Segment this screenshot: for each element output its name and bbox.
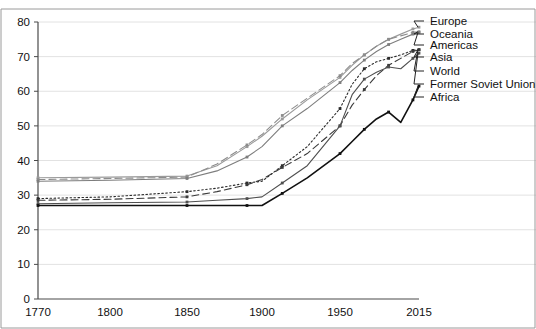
data-point-africa-1970: [363, 128, 366, 131]
data-point-americas-1913: [281, 124, 284, 127]
y-tick-label-60: 60: [17, 85, 30, 97]
data-point-asia-1850: [186, 190, 189, 193]
y-tick-label-70: 70: [17, 51, 30, 63]
data-point-africa-1913: [281, 192, 284, 195]
data-point-africa-1770: [37, 204, 40, 207]
line-chart: 01020304050607080 1770180018501900195020…: [0, 0, 536, 329]
y-tick-label-0: 0: [24, 293, 30, 305]
data-point-oceania-1913: [281, 114, 284, 117]
x-axis-tick-labels: 177018001850190019502015: [25, 306, 432, 318]
data-point-oceania-1890: [246, 144, 249, 147]
data-point-asia-1950: [339, 107, 342, 110]
data-point-americas-1770: [37, 180, 40, 183]
legend-label-asia: Asia: [430, 51, 453, 63]
data-point-americas-1890: [246, 156, 249, 159]
data-point-former-soviet-union-1913: [281, 182, 284, 185]
data-point-africa-1950: [339, 152, 342, 155]
series-line-former-soviet-union: [38, 53, 419, 204]
series-line-europe: [38, 27, 419, 178]
data-point-africa-2010: [412, 99, 415, 102]
legend-labels: EuropeOceaniaAmericasAsiaWorldFormer Sov…: [430, 15, 535, 103]
y-tick-label-40: 40: [17, 155, 30, 167]
series-line-africa: [38, 86, 419, 205]
series-layer: [37, 26, 421, 207]
x-tick-label-1900: 1900: [249, 306, 275, 318]
data-point-world-1850: [186, 195, 189, 198]
y-tick-label-80: 80: [17, 16, 30, 28]
y-axis-tick-labels: 01020304050607080: [17, 16, 30, 305]
data-point-oceania-1950: [339, 74, 342, 77]
legend-label-americas: Americas: [430, 39, 478, 51]
data-point-former-soviet-union-1950: [339, 124, 342, 127]
data-point-europe-2015: [418, 26, 421, 29]
data-point-africa-1990: [387, 111, 390, 114]
legend-label-world: World: [430, 65, 460, 77]
series-line-oceania: [38, 32, 419, 180]
legend-leader-former-soviet-union: [414, 53, 424, 84]
data-point-world-1770: [37, 199, 40, 202]
y-tick-label-10: 10: [17, 258, 30, 270]
x-tick-label-1950: 1950: [327, 306, 353, 318]
data-point-world-1890: [246, 183, 249, 186]
x-tick-label-1800: 1800: [97, 306, 123, 318]
legend-label-europe: Europe: [430, 15, 467, 27]
data-point-americas-1970: [363, 59, 366, 62]
data-point-americas-1990: [387, 43, 390, 46]
data-point-former-soviet-union-1990: [387, 66, 390, 69]
data-point-asia-1970: [363, 67, 366, 70]
y-tick-label-30: 30: [17, 189, 30, 201]
data-point-europe-1913: [281, 118, 284, 121]
x-tick-label-1770: 1770: [25, 306, 51, 318]
legend-label-former-soviet-union: Former Soviet Union: [430, 78, 535, 90]
x-tick-label-2015: 2015: [406, 306, 432, 318]
series-line-asia: [38, 50, 419, 199]
data-point-former-soviet-union-1970: [363, 78, 366, 81]
data-point-americas-1850: [186, 177, 189, 180]
data-point-africa-1850: [186, 204, 189, 207]
legend-label-africa: Africa: [430, 91, 460, 103]
y-tick-label-50: 50: [17, 120, 30, 132]
y-tick-label-20: 20: [17, 224, 30, 236]
data-point-oceania-1970: [363, 53, 366, 56]
data-point-europe-2010: [412, 28, 415, 31]
data-point-former-soviet-union-1890: [246, 197, 249, 200]
grid-layer: [38, 22, 536, 264]
data-point-americas-1950: [339, 81, 342, 84]
data-point-oceania-1990: [387, 38, 390, 41]
data-point-world-1913: [281, 166, 284, 169]
data-point-former-soviet-union-1850: [186, 201, 189, 204]
chart-container: 01020304050607080 1770180018501900195020…: [0, 0, 536, 329]
data-point-asia-1990: [387, 57, 390, 60]
data-point-world-2010: [412, 50, 415, 53]
data-point-world-1970: [363, 88, 366, 91]
x-tick-label-1850: 1850: [174, 306, 200, 318]
data-point-africa-1890: [246, 204, 249, 207]
